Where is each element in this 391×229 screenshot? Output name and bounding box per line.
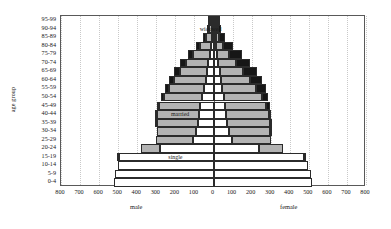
female-bar-half (214, 84, 367, 93)
y-axis-tick-labels: 0-45-910-1415-1920-2425-2930-3435-3940-4… (20, 15, 58, 186)
x-axis-tick-label: 500 (113, 188, 122, 195)
female-widowed-segment (266, 102, 270, 111)
female-married-segment (227, 119, 269, 128)
y-axis-tick-label: 15-19 (42, 152, 56, 161)
male-married-segment (186, 59, 208, 68)
female-bar-half (214, 102, 367, 111)
x-axis-tick-label: 600 (322, 188, 331, 195)
male-bar-half (61, 127, 214, 136)
pyramid-row (61, 33, 364, 42)
y-axis-tick-label: 65-69 (42, 66, 56, 75)
female-bar-half (214, 25, 367, 34)
pyramid-row (61, 161, 364, 170)
x-axis-tick-label: 400 (132, 188, 141, 195)
male-single-segment (160, 144, 213, 153)
plot-area: widowedmarriedsingle (60, 15, 365, 186)
x-axis-tick-label: 300 (151, 188, 160, 195)
female-married-segment (232, 136, 271, 145)
male-bar-half (61, 170, 214, 179)
male-bar-half (61, 16, 214, 25)
female-married-segment (220, 67, 243, 76)
pyramid-row (61, 119, 364, 128)
y-axis-tick-label: 10-14 (42, 160, 56, 169)
female-single-segment (214, 136, 232, 145)
single-annot: single (168, 154, 182, 160)
male-single-segment (200, 102, 213, 111)
female-widowed-segment (250, 76, 262, 85)
female-married-segment (304, 153, 306, 162)
male-single-segment (193, 136, 214, 145)
x-axis-tick-labels: 8007006005004003002001000100200300400500… (60, 188, 365, 200)
y-axis-tick-label: 90-94 (42, 24, 56, 33)
y-axis-tick-label: 20-24 (42, 143, 56, 152)
pyramid-row (61, 170, 364, 179)
female-widowed-segment (256, 84, 266, 93)
male-married-segment (164, 93, 202, 102)
female-widowed-segment (223, 42, 233, 51)
male-married-segment (157, 127, 196, 136)
male-single-segment (119, 153, 213, 162)
male-married-segment (156, 136, 192, 145)
male-single-segment (114, 178, 213, 187)
female-bar-half (214, 59, 367, 68)
male-bar-half (61, 67, 214, 76)
female-bar-half (214, 127, 367, 136)
x-axis-tick-label: 200 (170, 188, 179, 195)
x-axis-tick-label: 100 (227, 188, 236, 195)
female-single-segment (214, 153, 305, 162)
bar-rows (61, 16, 364, 185)
male-single-segment (204, 84, 214, 93)
male-bar-half (61, 102, 214, 111)
female-single-segment (214, 76, 221, 85)
y-axis-tick-label: 50-54 (42, 92, 56, 101)
pyramid-row (61, 42, 364, 51)
male-single-segment (118, 161, 213, 170)
female-married-segment (229, 127, 270, 136)
female-bar-half (214, 93, 367, 102)
female-widowed-segment (236, 59, 250, 68)
x-axis-tick-label: 300 (265, 188, 274, 195)
y-axis-tick-label: 30-34 (42, 126, 56, 135)
x-axis-tick-label: 700 (74, 188, 83, 195)
female-single-segment (214, 178, 312, 187)
male-axis-caption: male (130, 203, 142, 210)
female-bar-half (214, 67, 367, 76)
pyramid-row (61, 110, 364, 119)
x-axis-tick-label: 500 (303, 188, 312, 195)
pyramid-row (61, 67, 364, 76)
y-axis-tick-label: 60-64 (42, 75, 56, 84)
female-bar-half (214, 153, 367, 162)
female-single-segment (214, 170, 311, 179)
female-widowed-segment (218, 16, 220, 25)
female-single-segment (214, 102, 226, 111)
male-single-segment (199, 110, 213, 119)
female-single-segment (214, 127, 229, 136)
male-bar-half (61, 42, 214, 51)
x-axis-tick-label: 800 (360, 188, 369, 195)
female-bar-half (214, 161, 367, 170)
female-married-segment (222, 84, 256, 93)
female-married-segment (221, 76, 250, 85)
male-married-segment (193, 50, 209, 59)
male-single-segment (196, 127, 213, 136)
female-axis-caption: female (280, 203, 297, 210)
male-single-segment (198, 119, 213, 128)
male-single-segment (115, 170, 213, 179)
pyramid-row (61, 93, 364, 102)
y-axis-tick-label: 80-84 (42, 41, 56, 50)
male-bar-half (61, 59, 214, 68)
male-bar-half (61, 161, 214, 170)
female-married-segment (217, 50, 229, 59)
female-widowed-segment (243, 67, 257, 76)
pyramid-row (61, 16, 364, 25)
male-bar-half (61, 110, 214, 119)
pyramid-row (61, 153, 364, 162)
female-single-segment (214, 119, 228, 128)
x-axis-tick-label: 800 (55, 188, 64, 195)
y-axis-tick-label: 0-4 (48, 177, 56, 186)
male-bar-half (61, 50, 214, 59)
female-single-segment (214, 93, 224, 102)
y-axis-tick-label: 40-44 (42, 109, 56, 118)
female-single-segment (214, 110, 227, 119)
y-axis-tick-label: 70-74 (42, 58, 56, 67)
